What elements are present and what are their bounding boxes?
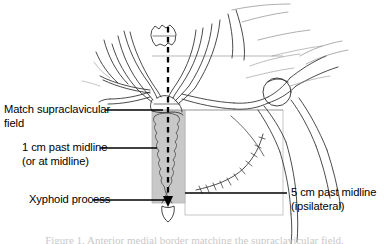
figure-root: Match supraclavicular field 1 cm past mi…: [0, 0, 389, 244]
label-xyphoid-process-line1: Xyphoid process: [29, 193, 110, 205]
label-match-supraclavicular-field-line1: Match supraclavicular: [4, 103, 110, 115]
label-match-supraclavicular-field: Match supraclavicular field: [4, 103, 110, 130]
label-five-cm-past-midline: 5 cm past midline (ipsilateral): [291, 186, 376, 213]
figure-caption: Figure 1. Anterior medial border matchin…: [0, 234, 389, 244]
xyphoid-process-marker: [162, 206, 175, 222]
field-reference-lines: [152, 56, 283, 110]
label-match-supraclavicular-field-line2: field: [4, 117, 110, 131]
label-xyphoid-process: Xyphoid process: [29, 193, 110, 207]
lateral-tangent-field: [185, 110, 283, 215]
label-one-cm-past-midline: 1 cm past midline (or at midline): [22, 141, 107, 168]
label-one-cm-past-midline-line1: 1 cm past midline: [22, 141, 107, 153]
label-five-cm-past-midline-line1: 5 cm past midline: [291, 186, 376, 198]
label-five-cm-past-midline-line2: (ipsilateral): [291, 200, 376, 214]
label-one-cm-past-midline-line2: (or at midline): [22, 155, 107, 169]
